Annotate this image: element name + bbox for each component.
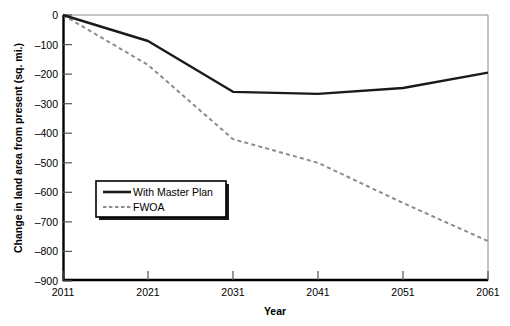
chart-legend[interactable]: With Master Plan FWOA [96, 181, 229, 220]
x-tick-label: 2041 [306, 286, 330, 298]
y-tick-label: –200 [35, 68, 59, 80]
x-tick-label: 2051 [391, 286, 415, 298]
y-axis-title: Change in land area from present (sq. mi… [12, 43, 24, 253]
x-tick-label: 2061 [476, 286, 500, 298]
y-tick-label: –500 [35, 157, 59, 169]
y-tick-label: –100 [35, 39, 59, 51]
y-tick-label: –600 [35, 186, 59, 198]
y-tick-label: –700 [35, 216, 59, 228]
x-tick-label: 2031 [221, 286, 245, 298]
line-chart: 0 –100 –200 –300 –400 –500 –600 –700 –80… [0, 0, 510, 326]
y-tick-label: 0 [52, 9, 58, 21]
y-axis-tick-labels: 0 –100 –200 –300 –400 –500 –600 –700 –80… [35, 9, 59, 287]
legend-label-fwoa: FWOA [133, 201, 165, 213]
y-tick-label: –800 [35, 245, 59, 257]
x-axis-tick-labels: 2011 2021 2031 2041 2051 2061 [52, 286, 500, 298]
x-tick-label: 2021 [136, 286, 160, 298]
x-tick-label: 2011 [52, 286, 75, 298]
y-tick-label: –300 [35, 98, 59, 110]
chart-figure: 0 –100 –200 –300 –400 –500 –600 –700 –80… [0, 0, 510, 326]
x-axis-title: Year [264, 305, 286, 317]
legend-label-master-plan: With Master Plan [133, 186, 213, 198]
y-tick-label: –400 [35, 127, 59, 139]
plot-area-background [63, 15, 488, 281]
